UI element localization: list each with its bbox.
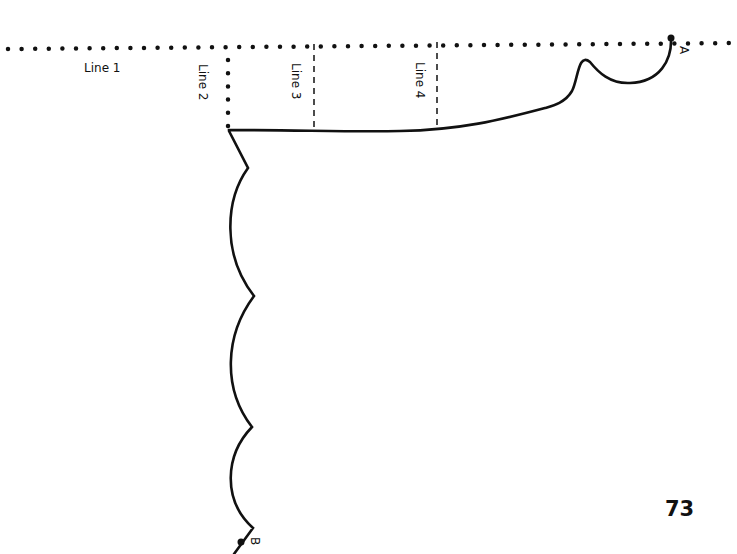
line-3-label: Line 3 bbox=[289, 63, 303, 99]
line-4-label: Line 4 bbox=[413, 62, 427, 98]
point-a-label: A bbox=[677, 46, 691, 55]
line-1-dotted bbox=[8, 43, 737, 49]
point-b-label: B bbox=[248, 537, 262, 545]
pattern-diagram: Line 1 Line 2 Line 3 Line 4 A B bbox=[0, 0, 737, 554]
line-1-label: Line 1 bbox=[84, 61, 120, 75]
page-number: 73 bbox=[665, 497, 694, 521]
pattern-outline bbox=[229, 38, 671, 554]
point-a-dot bbox=[668, 35, 675, 42]
line-2-label: Line 2 bbox=[196, 64, 210, 100]
point-b-dot bbox=[238, 539, 245, 546]
